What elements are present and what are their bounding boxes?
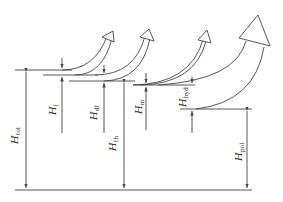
- label-h-th: Hth: [108, 136, 119, 151]
- label-h-pol: Hpol: [234, 143, 245, 161]
- flow-arrow-1: [62, 31, 114, 75]
- label-h-m: Hm: [134, 100, 145, 114]
- label-h-l: Hl: [48, 104, 59, 115]
- label-h-tot: Htot: [10, 127, 21, 144]
- label-h-hyd: Hhyd: [178, 87, 189, 107]
- flow-arrow-4: [158, 15, 270, 109]
- label-h-df: Hdf: [89, 105, 100, 120]
